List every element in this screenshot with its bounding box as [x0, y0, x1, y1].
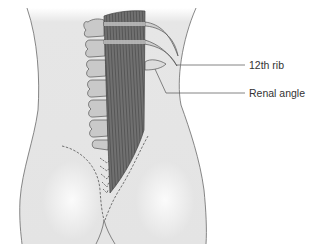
back-anatomy-diagram — [0, 0, 315, 248]
rib-overlay-upper — [104, 22, 145, 26]
left-buttock-highlight — [42, 160, 102, 240]
label-renal-angle: Renal angle — [249, 88, 305, 99]
label-12th-rib: 12th rib — [249, 60, 284, 71]
right-buttock-highlight — [135, 160, 195, 240]
rib-overlay-lower — [104, 40, 145, 44]
anatomy-figure: 12th rib Renal angle — [0, 0, 315, 248]
